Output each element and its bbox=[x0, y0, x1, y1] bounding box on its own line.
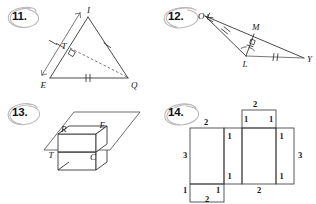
net-label-right-side: 3 bbox=[298, 150, 302, 160]
figure-14-net: 2 1 1 2 3 1 1 1 1 3 2 1 1 2 bbox=[158, 96, 316, 204]
net-label-bottom-center: 2 bbox=[257, 185, 261, 195]
net-label-right-upper: 1 bbox=[279, 131, 283, 141]
net-label-bottom-flap-right: 1 bbox=[216, 185, 220, 195]
figure-11-triangle: I T E Q bbox=[0, 0, 158, 96]
net-label-top-flap-left: 1 bbox=[244, 114, 248, 124]
net-label-bottom-flap-left: 1 bbox=[183, 185, 187, 195]
net-label-left-side: 3 bbox=[183, 150, 187, 160]
problem-14: 14. 2 1 1 2 3 1 1 1 1 3 2 1 1 2 bbox=[158, 96, 316, 204]
vertex-label-Q: Q bbox=[131, 80, 138, 90]
vertex-label-E: E bbox=[99, 120, 106, 130]
net-label-bottom-mid: 2 bbox=[205, 194, 209, 204]
vertex-label-I: I bbox=[86, 5, 91, 15]
vertex-label-M: M bbox=[251, 22, 260, 32]
vertex-label-Y: Y bbox=[307, 54, 313, 64]
figure-13-prism-and-plane: R E T C bbox=[0, 96, 158, 204]
net-label-mid-left-lower: 1 bbox=[227, 171, 231, 181]
vertex-label-E: E bbox=[40, 80, 47, 90]
vertex-label-R: R bbox=[60, 124, 67, 134]
problem-13: 13. R E T C bbox=[0, 96, 158, 204]
net-label-mid-left-upper: 1 bbox=[227, 131, 231, 141]
worksheet-page: 11. I T E Q bbox=[0, 0, 316, 204]
net-label-top-flap-right: 1 bbox=[269, 114, 273, 124]
net-label-left-top: 2 bbox=[204, 117, 208, 127]
vertex-label-O: O bbox=[198, 11, 205, 21]
problem-12: 12. O M L Y bbox=[158, 0, 316, 96]
vertex-label-L: L bbox=[242, 59, 248, 69]
figure-12-triangle: O M L Y bbox=[158, 0, 316, 96]
vertex-label-T: T bbox=[62, 41, 68, 51]
vertex-label-C: C bbox=[90, 152, 97, 162]
net-label-right-lower: 1 bbox=[279, 171, 283, 181]
problem-11: 11. I T E Q bbox=[0, 0, 158, 96]
net-label-top-mid: 2 bbox=[253, 99, 257, 109]
vertex-label-T: T bbox=[49, 150, 55, 160]
